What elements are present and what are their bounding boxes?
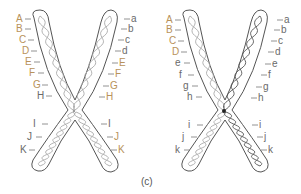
chromatid-helix: [75, 112, 110, 166]
right-chromosome-label-left: C: [169, 36, 176, 46]
right-chromosome-label-left: f: [179, 70, 182, 80]
chromatid-helix: [190, 112, 225, 166]
left-chromosome-label-right: d: [122, 46, 128, 56]
chromatid-helix: [225, 112, 260, 166]
right-chromosome-label-right: d: [275, 47, 281, 57]
right-chromosome-label-right: b: [281, 25, 287, 35]
right-chromosome-label-left: g: [183, 81, 189, 91]
chromatid-helix: [40, 112, 75, 166]
left-chromosome-label-left: I: [33, 119, 36, 129]
right-chromosome-label-left: k: [175, 145, 180, 155]
left-chromosome-label-right: c: [125, 35, 130, 45]
left-chromosome-label-left: J: [27, 132, 32, 142]
left-chromosome-label-right: I: [108, 119, 111, 129]
left-chromosome-label-right: K: [118, 145, 125, 155]
chromatid-helix: [224, 16, 261, 110]
left-chromosome-label-left: F: [29, 68, 35, 78]
right-chromosome-label-right: c: [278, 36, 283, 46]
left-chromosome-label-left: E: [25, 57, 32, 67]
left-chromosome-label-right: b: [128, 24, 134, 34]
right-chromosome-label-right: h: [258, 93, 264, 103]
right-chromosome-label-right: k: [268, 145, 273, 155]
right-chromosome-label-right: f: [268, 70, 271, 80]
right-chromosome-label-left: j: [182, 132, 184, 142]
right-chromosome-label-left: e: [175, 58, 181, 68]
right-chromosome-label-left: h: [187, 92, 193, 102]
chromatid-helix: [226, 112, 262, 166]
left-chromosome-label-left: G: [33, 80, 41, 90]
left-chromosome-label-right: H: [106, 92, 113, 102]
left-chromosome-label-right: J: [114, 132, 119, 142]
left-chromosome-label-right: G: [110, 81, 118, 91]
chromosome-crossover-figure: ABCDEFGHIJKabcdEFGHIJKABCDefghijkabcdefg…: [0, 0, 301, 194]
right-chromosome: [182, 10, 268, 172]
right-chromosome-label-right: e: [272, 59, 278, 69]
left-chromosome-label-left: C: [19, 35, 26, 45]
chromatid-helix: [188, 112, 223, 166]
right-chromosome-label-right: g: [263, 82, 269, 92]
chromatid-helix: [38, 112, 73, 166]
chromatid-helix: [76, 112, 112, 166]
centromere-icon: [222, 109, 226, 113]
chromatid-helix: [74, 16, 111, 110]
figure-caption: (c): [141, 176, 153, 187]
chromatid-helix: [188, 16, 223, 110]
right-chromosome-label-right: j: [264, 132, 266, 142]
right-chromosome-label-left: i: [188, 120, 190, 130]
centromere-icon: [73, 110, 75, 112]
left-chromosome-label-left: D: [22, 46, 29, 56]
right-chromosome-label-right: i: [259, 120, 261, 130]
left-chromosome-label-left: B: [16, 24, 23, 34]
left-chromosome-label-left: H: [37, 91, 44, 101]
right-chromosome-label-left: B: [166, 25, 173, 35]
left-chromosome-label-right: F: [115, 69, 121, 79]
chromosome-drawing: [0, 0, 301, 194]
right-chromosome-label-left: D: [172, 47, 179, 57]
left-chromosome-label-left: K: [20, 145, 27, 155]
left-chromosome-label-right: E: [119, 58, 126, 68]
